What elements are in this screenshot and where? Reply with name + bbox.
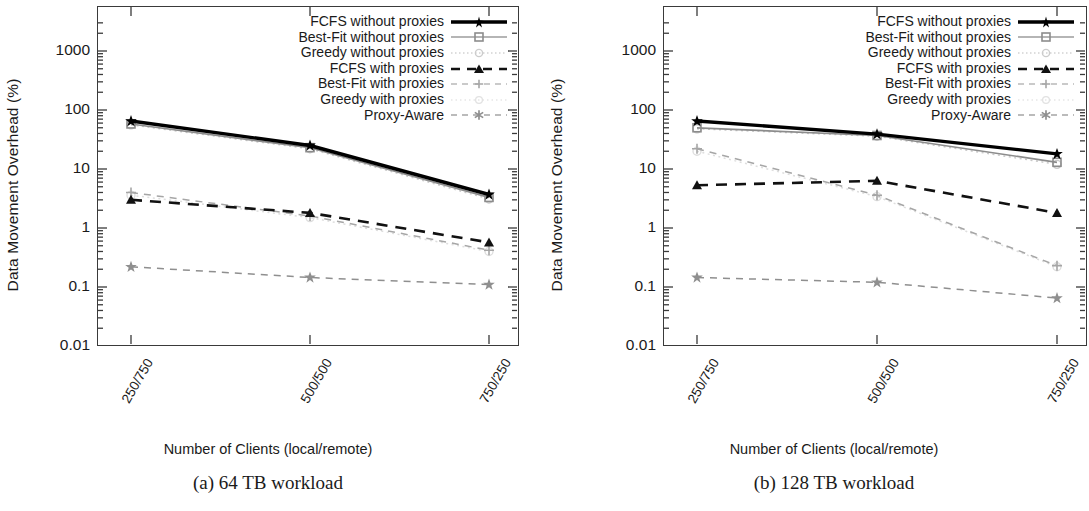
y-tick-10-b: 10 xyxy=(639,159,656,177)
legend-a: FCFS without proxies Best-Fit without pr… xyxy=(240,14,508,123)
legend-item-proxy-aware-a: Proxy-Aware xyxy=(240,108,508,124)
legend-b: FCFS without proxies Best-Fit without pr… xyxy=(807,14,1075,123)
legend-swatch-greedy-with-proxies xyxy=(1017,93,1075,107)
legend-swatch-fcfs-without-proxies xyxy=(450,15,508,29)
y-tick-100-a: 100 xyxy=(64,100,90,118)
legend-label: Greedy without proxies xyxy=(868,45,1017,61)
legend-swatch-bestfit-without-proxies xyxy=(450,30,508,44)
legend-label: FCFS without proxies xyxy=(310,14,450,30)
legend-item-greedy-without-proxies-a: Greedy without proxies xyxy=(240,45,508,61)
legend-label: FCFS with proxies xyxy=(330,61,450,77)
legend-swatch-bestfit-with-proxies xyxy=(1017,77,1075,91)
y-tick-100-b: 100 xyxy=(630,100,656,118)
x-tick-750-250-a: 750/250 xyxy=(477,356,514,406)
legend-label: Best-Fit with proxies xyxy=(885,76,1017,92)
legend-item-greedy-with-proxies-b: Greedy with proxies xyxy=(807,92,1075,108)
x-tick-500-500-b: 500/500 xyxy=(865,356,902,406)
legend-swatch-bestfit-with-proxies xyxy=(450,77,508,91)
x-tick-250-750-b: 250/750 xyxy=(685,356,722,406)
legend-label: Best-Fit without proxies xyxy=(866,30,1018,46)
y-tick-0.01-b: 0.01 xyxy=(626,336,656,354)
legend-label: Best-Fit with proxies xyxy=(318,76,450,92)
legend-swatch-greedy-without-proxies xyxy=(1017,46,1075,60)
legend-swatch-greedy-with-proxies xyxy=(450,93,508,107)
legend-label: Greedy without proxies xyxy=(301,45,450,61)
panel-b: Data Movement Overhead (%) 1000 100 10 1… xyxy=(544,0,1089,511)
y-tick-1-b: 1 xyxy=(647,218,656,236)
panel-a: Data Movement Overhead (%) 1000 100 10 1… xyxy=(0,0,545,511)
legend-label: Greedy with proxies xyxy=(887,92,1017,108)
y-tick-1000-a: 1000 xyxy=(56,41,90,59)
y-tick-0.1-b: 0.1 xyxy=(634,277,656,295)
x-tick-250-750-a: 250/750 xyxy=(119,356,156,406)
legend-item-bestfit-with-proxies-b: Best-Fit with proxies xyxy=(807,76,1075,92)
legend-swatch-fcfs-with-proxies xyxy=(450,62,508,76)
legend-item-greedy-with-proxies-a: Greedy with proxies xyxy=(240,92,508,108)
legend-item-fcfs-with-proxies-b: FCFS with proxies xyxy=(807,61,1075,77)
caption-a: (a) 64 TB workload xyxy=(38,472,498,494)
legend-item-fcfs-with-proxies-a: FCFS with proxies xyxy=(240,61,508,77)
legend-label: Best-Fit without proxies xyxy=(299,30,451,46)
legend-item-proxy-aware-b: Proxy-Aware xyxy=(807,108,1075,124)
y-axis-title-b: Data Movement Overhead (%) xyxy=(548,0,566,370)
legend-item-greedy-without-proxies-b: Greedy without proxies xyxy=(807,45,1075,61)
legend-item-bestfit-with-proxies-a: Best-Fit with proxies xyxy=(240,76,508,92)
legend-label: Proxy-Aware xyxy=(931,108,1017,124)
x-axis-title-b: Number of Clients (local/remote) xyxy=(604,441,1064,457)
x-tick-500-500-a: 500/500 xyxy=(298,356,335,406)
legend-swatch-proxy-aware xyxy=(450,108,508,122)
y-tick-1-a: 1 xyxy=(81,218,90,236)
legend-item-bestfit-without-proxies-a: Best-Fit without proxies xyxy=(240,30,508,46)
y-tick-0.01-a: 0.01 xyxy=(60,336,90,354)
y-tick-10-a: 10 xyxy=(73,159,90,177)
legend-swatch-bestfit-without-proxies xyxy=(1017,30,1075,44)
legend-swatch-fcfs-without-proxies xyxy=(1017,15,1075,29)
legend-swatch-fcfs-with-proxies xyxy=(1017,62,1075,76)
y-tick-0.1-a: 0.1 xyxy=(68,277,90,295)
legend-item-fcfs-without-proxies-b: FCFS without proxies xyxy=(807,14,1075,30)
legend-item-bestfit-without-proxies-b: Best-Fit without proxies xyxy=(807,30,1075,46)
legend-label: Proxy-Aware xyxy=(364,108,450,124)
x-axis-title-a: Number of Clients (local/remote) xyxy=(38,441,498,457)
y-axis-title-a: Data Movement Overhead (%) xyxy=(4,0,22,370)
legend-item-fcfs-without-proxies-a: FCFS without proxies xyxy=(240,14,508,30)
x-tick-750-250-b: 750/250 xyxy=(1045,356,1082,406)
legend-label: Greedy with proxies xyxy=(320,92,450,108)
legend-label: FCFS without proxies xyxy=(877,14,1017,30)
caption-b: (b) 128 TB workload xyxy=(604,472,1064,494)
legend-label: FCFS with proxies xyxy=(897,61,1017,77)
figure-two-panel-line-charts: Data Movement Overhead (%) 1000 100 10 1… xyxy=(0,0,1089,511)
legend-swatch-greedy-without-proxies xyxy=(450,46,508,60)
legend-swatch-proxy-aware xyxy=(1017,108,1075,122)
y-tick-1000-b: 1000 xyxy=(622,41,656,59)
